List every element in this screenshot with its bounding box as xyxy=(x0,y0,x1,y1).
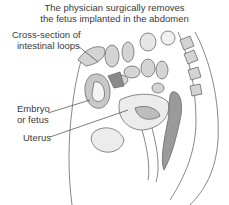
vertebra xyxy=(180,36,194,50)
vertebra xyxy=(184,50,198,64)
leader-line-embryo xyxy=(48,100,90,113)
bladder xyxy=(91,128,124,152)
intestine-loop xyxy=(124,66,140,78)
vaginal-canal xyxy=(142,130,149,180)
implant-site xyxy=(108,72,124,88)
anatomy-illustration xyxy=(0,0,229,205)
intestine-loop xyxy=(141,59,155,77)
intestine-loop xyxy=(156,61,168,79)
vaginal-canal xyxy=(152,128,158,182)
intestine-loop xyxy=(122,42,134,62)
intestine-loop xyxy=(105,45,119,67)
intestine-loop xyxy=(140,33,156,51)
vertebra xyxy=(190,84,202,96)
intestine-loop xyxy=(152,83,164,93)
intestine-loop xyxy=(161,31,175,45)
body-outline-front xyxy=(69,58,82,205)
